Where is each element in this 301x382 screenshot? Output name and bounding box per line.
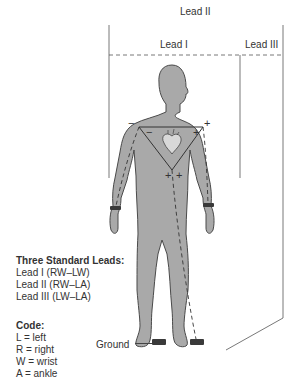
right-wrist-electrode: [110, 206, 121, 210]
code-legend: Code: L = left R = right W = wrist A = a…: [16, 320, 57, 380]
lead3-label: Lead III: [245, 39, 278, 50]
polarity-bottom-right: +: [176, 169, 182, 181]
polarity-right-corner: −: [146, 126, 152, 138]
code-right: R = right: [16, 344, 57, 356]
leads-legend-title: Three Standard Leads:: [16, 255, 124, 267]
left-ankle-electrode: [190, 339, 204, 345]
code-legend-title: Code:: [16, 320, 57, 332]
human-body: [110, 65, 214, 347]
polarity-left-corner: +: [193, 126, 199, 138]
left-wrist-electrode: [203, 203, 214, 207]
leads-legend: Three Standard Leads: Lead I (RW–LW) Lea…: [16, 255, 124, 303]
polarity-bottom-left: +: [165, 169, 171, 181]
lead-lines: [109, 25, 283, 350]
code-left: L = left: [16, 332, 57, 344]
lead2-label: Lead II: [180, 6, 211, 17]
ground-label: Ground: [96, 339, 129, 350]
left-ankle-wire: [226, 318, 283, 350]
code-ankle: A = ankle: [16, 368, 57, 380]
legend-lead-3: Lead III (LW–LA): [16, 291, 124, 303]
ground-pointer-line: [135, 343, 152, 344]
ground-callout: Ground: [96, 334, 152, 352]
legend-lead-1: Lead I (RW–LW): [16, 267, 124, 279]
code-wrist: W = wrist: [16, 356, 57, 368]
lead1-label: Lead I: [160, 39, 188, 50]
polarity-right-shoulder: −: [128, 117, 134, 129]
legend-lead-2: Lead II (RW–LA): [16, 279, 124, 291]
right-ankle-electrode: [152, 339, 166, 345]
polarity-left-shoulder: +: [204, 117, 210, 129]
